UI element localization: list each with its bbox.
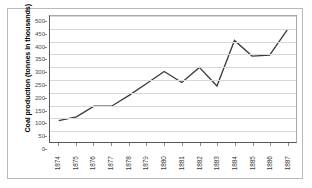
x-axis-tick-label: 1881 [179,150,185,176]
x-axis-tick-mark [164,143,165,146]
x-axis-tick-label: 1884 [232,150,238,176]
x-axis-tick-mark [200,143,201,146]
y-axis-tick-mark [44,98,47,99]
x-axis-tick-label: 1874 [55,150,61,176]
x-axis-tick-label: 1878 [126,150,132,176]
x-axis-tick-mark [217,143,218,146]
x-axis-tick-mark [58,143,59,146]
x-axis-tick-label: 1887 [285,150,291,176]
gridline-y [50,42,296,43]
series-line [59,30,287,121]
gridline-y [50,93,296,94]
x-axis-tick-label: 1886 [267,150,273,176]
x-axis-tick-mark [129,143,130,146]
x-axis-tick-labels: 1874187518761877187818791880188118821883… [49,147,297,177]
y-axis-tick-mark [44,85,47,86]
x-axis-tick-label: 1877 [108,150,114,176]
x-axis-tick-mark [270,143,271,146]
y-axis-tick-mark [44,21,47,22]
y-axis-tick-mark [44,123,47,124]
x-axis-tick-mark [182,143,183,146]
y-axis-tick-mark [44,149,47,150]
gridline-y [50,16,296,17]
x-axis-tick-mark [76,143,77,146]
y-axis-tick-mark [44,136,47,137]
gridline-y [50,67,296,68]
y-axis-tick-mark [44,111,47,112]
x-axis-tick-mark [146,143,147,146]
plot-area [49,15,297,143]
x-axis-tick-label: 1876 [90,150,96,176]
gridline-y [50,54,296,55]
line-series-coal-production [50,16,296,142]
gridline-y [50,131,296,132]
y-axis-tick-mark [44,72,47,73]
x-axis-tick-mark [253,143,254,146]
y-axis-tick-mark [44,34,47,35]
gridline-y [50,29,296,30]
x-axis-tick-label: 1880 [161,150,167,176]
y-axis-tick-mark [44,47,47,48]
chart-container: Coal production (tonnes in thousands) 05… [8,9,302,178]
gridline-y [50,80,296,81]
x-axis-tick-mark [93,143,94,146]
chart-frame: Coal production (tonnes in thousands) 05… [7,8,303,179]
x-axis-tick-label: 1882 [196,150,202,176]
y-axis-tick-mark [44,59,47,60]
x-axis-tick-label: 1883 [214,150,220,176]
x-axis-tick-label: 1879 [143,150,149,176]
gridline-y [50,106,296,107]
x-axis-tick-mark [288,143,289,146]
x-axis-tick-label: 1885 [250,150,256,176]
gridline-y [50,118,296,119]
x-axis-tick-mark [111,143,112,146]
x-axis-tick-mark [235,143,236,146]
x-axis-tick-label: 1875 [72,150,78,176]
y-axis-tick-labels: 050100150200250300350400450500 [26,15,47,143]
